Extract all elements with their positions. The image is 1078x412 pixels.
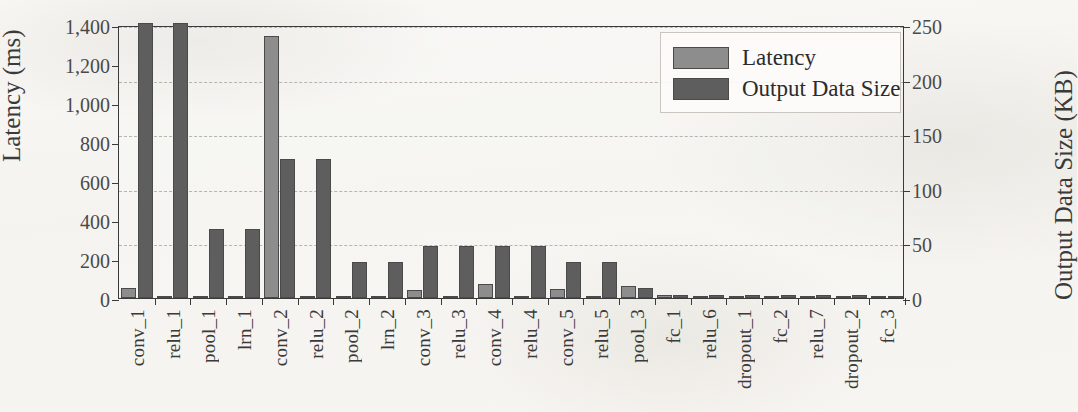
- bar-group: [262, 27, 298, 298]
- legend-label-output-data-size: Output Data Size: [742, 76, 900, 102]
- bar-output-data-size: [745, 295, 760, 298]
- x-tick-label: fc_3: [877, 309, 899, 344]
- x-tick: [619, 298, 620, 305]
- x-tick: [333, 298, 334, 305]
- x-tick: [655, 298, 656, 305]
- legend-label-latency: Latency: [742, 45, 816, 71]
- bar-group: [441, 27, 477, 298]
- bar-output-data-size: [709, 295, 724, 298]
- y-tick-label-right: 150: [903, 125, 942, 148]
- x-tick-label: fc_2: [770, 309, 792, 344]
- bar-output-data-size: [138, 23, 153, 298]
- bar-output-data-size: [245, 229, 260, 298]
- bar-latency: [407, 290, 422, 298]
- bar-latency: [193, 296, 208, 298]
- bar-output-data-size: [888, 296, 903, 298]
- bar-latency: [336, 296, 351, 298]
- x-tick-label: pool_3: [627, 309, 649, 363]
- bar-output-data-size: [423, 246, 438, 298]
- x-tick: [905, 298, 906, 305]
- bar-output-data-size: [352, 262, 367, 298]
- y-tick-label-left: 600: [80, 172, 119, 195]
- bar-group: [405, 27, 441, 298]
- bar-output-data-size: [602, 262, 617, 298]
- x-tick: [548, 298, 549, 305]
- bar-output-data-size: [316, 159, 331, 298]
- x-tick: [834, 298, 835, 305]
- legend-swatch-output-data-size: [673, 78, 729, 100]
- x-tick-label: relu_7: [806, 309, 828, 359]
- legend-swatch-latency: [673, 47, 729, 69]
- bar-latency: [729, 296, 744, 298]
- bar-group: [583, 27, 619, 298]
- x-tick-label: lrn_1: [234, 309, 256, 350]
- bar-output-data-size: [638, 288, 653, 298]
- x-tick: [298, 298, 299, 305]
- bar-latency: [800, 296, 815, 298]
- bar-output-data-size: [566, 262, 581, 298]
- bar-latency: [371, 296, 386, 298]
- bar-latency: [621, 286, 636, 298]
- x-tick-label: dropout_2: [841, 309, 863, 389]
- bar-output-data-size: [531, 246, 546, 298]
- bar-group: [119, 27, 155, 298]
- bar-latency: [300, 296, 315, 298]
- x-tick: [869, 298, 870, 305]
- x-tick-label: relu_2: [306, 309, 328, 359]
- x-tick: [583, 298, 584, 305]
- x-tick: [226, 298, 227, 305]
- bar-latency: [478, 284, 493, 298]
- bar-group: [226, 27, 262, 298]
- bar-group: [298, 27, 334, 298]
- x-tick: [476, 298, 477, 305]
- bar-latency: [586, 296, 601, 298]
- bar-latency: [764, 296, 779, 298]
- x-tick-label: relu_3: [448, 309, 470, 359]
- y-tick-label-left: 0: [100, 289, 119, 312]
- x-tick-label: fc_1: [663, 309, 685, 344]
- x-tick: [512, 298, 513, 305]
- bar-latency: [228, 296, 243, 298]
- bar-group: [619, 27, 655, 298]
- x-tick: [441, 298, 442, 305]
- bar-group: [155, 27, 191, 298]
- y-tick-label-left: 800: [80, 133, 119, 156]
- x-tick-label: relu_4: [520, 309, 542, 359]
- x-tick-label: relu_6: [699, 309, 721, 359]
- y-tick-label-left: 1,200: [65, 55, 119, 78]
- x-tick: [762, 298, 763, 305]
- y-tick-label-right: 50: [903, 234, 932, 257]
- x-tick: [405, 298, 406, 305]
- bar-output-data-size: [173, 23, 188, 298]
- x-tick-label: conv_2: [270, 309, 292, 366]
- bar-group: [333, 27, 369, 298]
- y-tick-label-right: 200: [903, 70, 942, 93]
- bar-output-data-size: [816, 295, 831, 298]
- x-tick: [691, 298, 692, 305]
- y-tick-label-right: 100: [903, 179, 942, 202]
- bar-latency: [157, 296, 172, 298]
- chart-legend: Latency Output Data Size: [660, 32, 901, 113]
- bar-output-data-size: [459, 246, 474, 298]
- legend-item-latency: Latency: [673, 42, 888, 73]
- y-axis-right-title: Output Data Size (KB): [1050, 70, 1078, 300]
- x-tick: [369, 298, 370, 305]
- x-tick-label: pool_2: [341, 309, 363, 363]
- bar-latency: [693, 296, 708, 298]
- bar-latency: [443, 296, 458, 298]
- x-tick-label: lrn_2: [377, 309, 399, 350]
- bar-output-data-size: [781, 295, 796, 298]
- y-tick-label-right: 250: [903, 16, 942, 39]
- x-tick: [190, 298, 191, 305]
- bar-group: [190, 27, 226, 298]
- x-tick: [726, 298, 727, 305]
- bar-group: [512, 27, 548, 298]
- bar-group: [548, 27, 584, 298]
- y-tick-label-left: 1,000: [65, 94, 119, 117]
- y-tick-label-left: 1,400: [65, 16, 119, 39]
- x-tick-label: relu_1: [163, 309, 185, 359]
- bar-group: [476, 27, 512, 298]
- x-tick-label: conv_4: [484, 309, 506, 366]
- bar-output-data-size: [280, 159, 295, 298]
